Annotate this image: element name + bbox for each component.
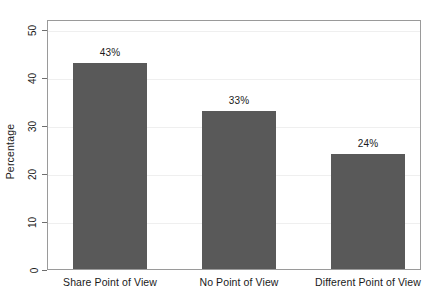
y-tick-label-50: 50 <box>0 23 38 37</box>
y-tick-label-20: 20 <box>0 167 38 181</box>
bar-different-point-of-view[interactable] <box>331 154 405 269</box>
y-tick-text-30: 30 <box>27 120 38 131</box>
y-tick-label-30: 30 <box>0 119 38 133</box>
y-tick-text-40: 40 <box>27 72 38 83</box>
bar-value-label-different-point-of-view: 24% <box>331 138 405 149</box>
bar-value-label-share-point-of-view: 43% <box>73 47 147 58</box>
bar-share-point-of-view[interactable] <box>73 63 147 269</box>
x-tick-label-no-point-of-view: No Point of View <box>175 276 303 288</box>
y-axis-title: Percentage <box>0 0 20 303</box>
bar-chart: Percentage 50 40 30 20 10 0 43% 33% 24% … <box>0 0 433 303</box>
x-tick-label-share-point-of-view: Share Point of View <box>40 276 180 288</box>
y-tick-text-50: 50 <box>27 24 38 35</box>
y-tick-mark-0 <box>42 270 47 271</box>
y-tick-text-10: 10 <box>27 216 38 227</box>
y-tick-text-0: 0 <box>30 267 41 273</box>
y-tick-label-40: 40 <box>0 71 38 85</box>
bar-no-point-of-view[interactable] <box>202 111 276 269</box>
bar-value-label-no-point-of-view: 33% <box>202 95 276 106</box>
x-tick-label-different-point-of-view: Different Point of View <box>296 276 433 288</box>
y-tick-label-0: 0 <box>0 263 38 277</box>
y-tick-text-20: 20 <box>27 168 38 179</box>
y-tick-label-10: 10 <box>0 215 38 229</box>
gridline-50 <box>48 31 420 32</box>
